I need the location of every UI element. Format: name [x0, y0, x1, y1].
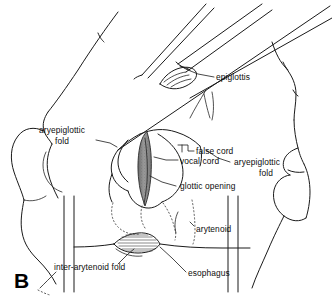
right-lip-lower-lobe — [273, 175, 306, 221]
blade-line-mid-lower — [186, 10, 272, 72]
label-epiglottis: epiglottis — [216, 72, 250, 82]
left-cheek-contour — [48, 12, 118, 112]
arytenoid-right-arc — [175, 212, 178, 233]
blade-line-mid-upper — [178, 4, 262, 64]
blade-shadow-line-2 — [212, 92, 214, 120]
leader-glottic-opening — [150, 176, 176, 186]
left-jaw-inner-crease — [24, 196, 46, 201]
label-esophagus: esophagus — [188, 268, 230, 278]
posterior-pharyngeal-wall-right — [160, 244, 250, 248]
glottis-stipple — [138, 132, 151, 206]
outer-anatomy-contours — [11, 12, 310, 288]
leader-arytenoid — [190, 222, 194, 226]
vestibule-left-inner — [118, 140, 128, 182]
arytenoid-left-dotted — [112, 203, 140, 234]
vestibule-right-lower — [162, 186, 180, 202]
arytenoid-right-dotted — [163, 203, 176, 240]
leader-aryepiglottic-left — [96, 140, 117, 147]
right-chin-contour — [252, 216, 284, 288]
label-aryepiglottic-fold-left-line2: fold — [55, 136, 69, 146]
laryngoscopy-illustration: epiglottis aryepiglottic fold aryepiglot… — [0, 0, 332, 301]
blade-tip-hook — [134, 75, 142, 79]
left-cheek-lobe-outer — [11, 128, 44, 200]
posterior-pharyngeal-wall-left — [74, 244, 114, 247]
laryngeal-vestibule — [109, 130, 202, 209]
leader-false-cord-bracket — [178, 145, 194, 151]
label-false-cord: false cord — [196, 146, 234, 156]
label-aryepiglottic-fold-right-line2: fold — [259, 168, 273, 178]
leader-epiglottis — [188, 70, 214, 77]
arytenoid-far-right-dotted — [192, 200, 195, 244]
glottic-opening-shape — [138, 132, 151, 206]
inter-arytenoid-fold-structure — [114, 233, 160, 256]
label-arytenoid: arytenoid — [196, 224, 232, 234]
blade-shadow-line — [190, 90, 206, 118]
arytenoid-mid-left-dotted — [141, 206, 145, 228]
leader-vocal-cord — [154, 157, 178, 160]
left-cheek-notch — [98, 33, 104, 42]
label-glottic-opening: glottic opening — [180, 181, 236, 191]
arytenoid-cartilages — [112, 200, 195, 244]
right-cheek-contour — [286, 68, 296, 120]
blade-wisp-line — [204, 94, 210, 118]
right-jaw-contour — [294, 120, 304, 164]
label-aryepiglottic-fold-left-line1: aryepiglottic — [39, 125, 85, 135]
panel-letter: B — [14, 269, 29, 292]
inter-arytenoid-hatching — [118, 235, 158, 251]
label-vocal-cord: vocal cord — [180, 156, 219, 166]
leader-esophagus — [160, 247, 186, 272]
epiglottis-inner-crease-1 — [164, 72, 186, 82]
laryngoscopy-figure: epiglottis aryepiglottic fold aryepiglot… — [0, 0, 332, 301]
right-lip-cleft — [288, 170, 304, 172]
panel-pointer-dots — [38, 290, 50, 295]
label-inter-arytenoid-fold: inter-arytenoid fold — [54, 262, 126, 272]
label-aryepiglottic-fold-right-line1: aryepiglottic — [234, 157, 280, 167]
vestibule-floor-left — [109, 174, 112, 202]
blade-line-long-lower — [190, 18, 332, 98]
right-lower-jaw-descend — [304, 164, 310, 218]
epiglottis-structure — [160, 66, 197, 89]
